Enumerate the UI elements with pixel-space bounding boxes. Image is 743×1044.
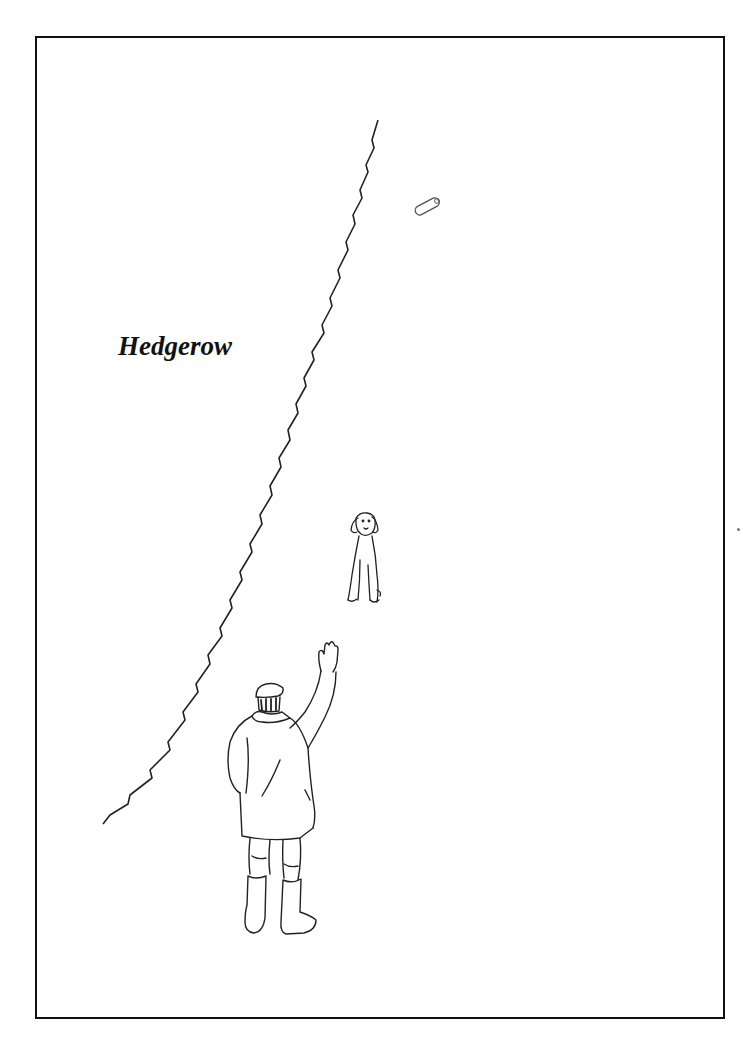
dummy-icon [414, 196, 441, 216]
stray-mark [737, 528, 740, 531]
dog-icon [348, 513, 381, 602]
hedgerow-line [103, 120, 378, 824]
scene-drawing [0, 0, 743, 1044]
man-waving-icon [228, 642, 338, 934]
